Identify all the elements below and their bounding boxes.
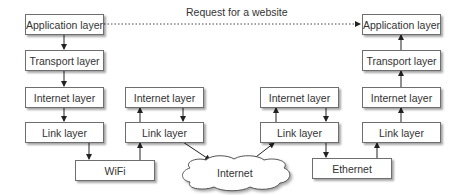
right-transport-layer: Transport layer <box>362 50 441 71</box>
left-transport-layer: Transport layer <box>25 50 104 71</box>
right-internet-layer: Internet layer <box>362 87 441 108</box>
left-link-layer: Link layer <box>25 122 104 143</box>
internet-cloud-label: Internet <box>217 167 253 179</box>
router1-link-layer: Link layer <box>125 122 204 143</box>
left-internet-layer: Internet layer <box>25 87 104 108</box>
right-application-layer: Application layer <box>362 14 441 35</box>
ethernet-box: Ethernet <box>312 158 392 179</box>
router2-link-layer: Link layer <box>260 122 339 143</box>
request-label: Request for a website <box>186 6 288 18</box>
wifi-box: WiFi <box>75 160 155 181</box>
router1-internet-layer: Internet layer <box>125 87 204 108</box>
right-link-layer: Link layer <box>362 122 441 143</box>
left-application-layer: Application layer <box>25 14 104 35</box>
router2-internet-layer: Internet layer <box>260 87 339 108</box>
